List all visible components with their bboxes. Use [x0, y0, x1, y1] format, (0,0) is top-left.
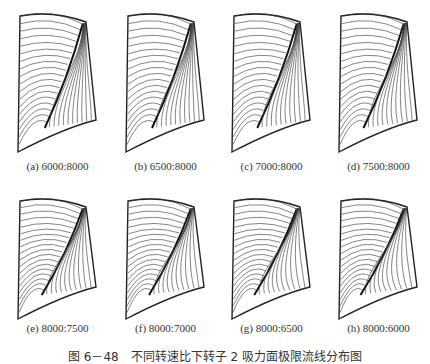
panel-label: (e) 8000:7500: [4, 322, 111, 334]
blade-streamlines: [112, 0, 219, 158]
panel-label: (d) 7500:8000: [325, 160, 430, 172]
blade-streamlines: [112, 185, 219, 325]
blade-streamlines: [218, 0, 325, 158]
blade-streamlines: [218, 185, 325, 325]
panel-label: (b) 6500:8000: [112, 160, 219, 172]
blade-streamlines: [4, 185, 111, 325]
panel-label: (h) 8000:6000: [325, 322, 430, 334]
streamline-panel: [218, 0, 325, 170]
blade-streamlines: [4, 0, 111, 158]
figure-caption: 图 6－48 不同转速比下转子 2 吸力面极限流线分布图: [0, 347, 430, 364]
panel-label: (c) 7000:8000: [218, 160, 325, 172]
streamline-panel: [325, 0, 430, 170]
streamline-panel: [112, 0, 219, 170]
blade-streamlines: [325, 185, 430, 325]
panel-label: (g) 8000:6500: [218, 322, 325, 334]
panel-label: (a) 6000:8000: [4, 160, 111, 172]
blade-streamlines: [325, 0, 430, 158]
streamline-panel: [4, 0, 111, 170]
panel-label: (f) 8000:7000: [112, 322, 219, 334]
